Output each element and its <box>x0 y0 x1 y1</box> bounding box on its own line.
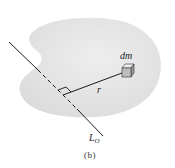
mass-element-label: dm <box>120 51 132 61</box>
rigid-body <box>20 18 161 117</box>
distance-label: r <box>97 85 101 95</box>
rigid-body-diagram <box>0 0 175 168</box>
axis-label: LO <box>89 133 100 145</box>
figure-caption: (b) <box>84 150 96 160</box>
mass-element-cube <box>122 64 134 77</box>
axis-label-subscript: O <box>95 137 100 145</box>
